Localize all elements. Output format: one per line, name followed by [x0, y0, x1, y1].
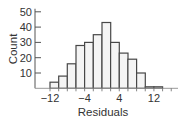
- y-tick-label: 10: [20, 67, 32, 79]
- histogram-bar: [102, 23, 111, 89]
- histogram-bar: [111, 42, 120, 88]
- x-tick-label: −12: [41, 92, 60, 104]
- x-tick-label: 12: [148, 92, 160, 104]
- x-axis-ticks: −12−4412: [41, 88, 172, 104]
- histogram-bar: [85, 42, 94, 88]
- y-axis-ticks: 1020304050: [20, 6, 41, 79]
- histogram-bar: [67, 64, 76, 89]
- y-axis-title: Count: [7, 33, 19, 64]
- histogram-bar: [76, 46, 85, 89]
- y-tick-label: 30: [20, 36, 32, 48]
- histogram-bar: [50, 82, 59, 88]
- x-tick-label: 4: [116, 92, 122, 104]
- histogram-bars: [50, 23, 163, 89]
- histogram-bar: [128, 59, 137, 88]
- x-axis-title: Residuals: [78, 106, 129, 118]
- histogram-bar: [59, 76, 68, 88]
- x-tick-label: −4: [78, 92, 91, 104]
- y-tick-label: 20: [20, 52, 32, 64]
- histogram-bar: [93, 35, 102, 89]
- residuals-histogram: 1020304050 −12−4412 Count Residuals: [0, 0, 187, 128]
- histogram-bar: [137, 73, 146, 88]
- histogram-bar: [119, 53, 128, 88]
- y-tick-label: 50: [20, 6, 32, 18]
- y-tick-label: 40: [20, 21, 32, 33]
